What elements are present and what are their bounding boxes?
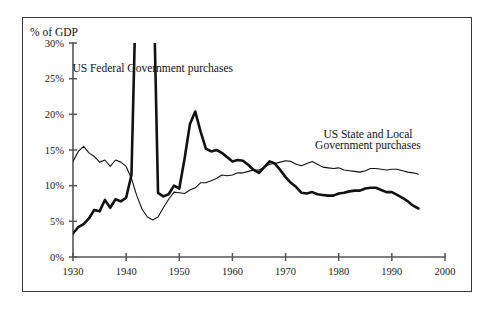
x-tick-label: 1930 <box>63 266 84 277</box>
x-tick-label: 1970 <box>275 266 296 277</box>
y-tick-label: 0% <box>50 252 64 263</box>
state-local-series-label-line1: US State and Local <box>323 128 412 140</box>
series-line-federal <box>73 0 418 233</box>
x-tick-label: 1950 <box>169 266 190 277</box>
y-tick-label: 30% <box>45 38 65 49</box>
federal-series-label: US Federal Government purchases <box>72 62 233 75</box>
x-axis-group: 19301940195019601970198019902000 <box>63 253 456 277</box>
y-tick-label: 5% <box>50 216 64 227</box>
series-annotations: US Federal Government purchasesUS State … <box>72 62 421 153</box>
x-tick-label: 1990 <box>381 266 402 277</box>
x-tick-label: 1980 <box>328 266 349 277</box>
chart-plot-area: 0%5%10%15%20%25%30% 19301940195019601970… <box>0 0 499 310</box>
series-line-state-local <box>73 146 418 219</box>
y-tick-label: 25% <box>45 73 65 84</box>
y-tick-label: 15% <box>45 145 65 156</box>
x-tick-label: 1960 <box>222 266 243 277</box>
x-tick-label: 1940 <box>116 266 137 277</box>
x-tick-label: 2000 <box>435 266 456 277</box>
state-local-series-label-line2: Government purchases <box>315 139 421 152</box>
y-tick-label: 20% <box>45 109 65 120</box>
y-tick-label: 10% <box>45 180 65 191</box>
chart-figure: 0%5%10%15%20%25%30% 19301940195019601970… <box>0 0 499 310</box>
data-series-group <box>73 0 418 233</box>
y-axis-title: % of GDP <box>30 26 78 38</box>
